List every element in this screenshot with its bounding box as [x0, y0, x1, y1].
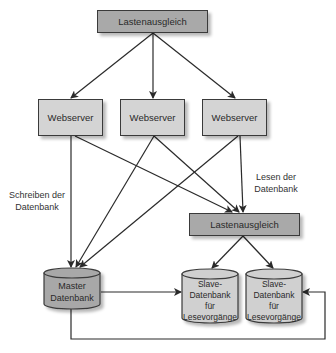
webserver-1-label: Webserver — [48, 112, 94, 123]
slave-db-1-line3: für — [205, 301, 215, 312]
arrow-ws3-to-master — [80, 136, 238, 267]
slave-db-2-line3: für — [269, 301, 279, 312]
write-annotation-line2: Datenbank — [2, 201, 72, 213]
slave-db-2-line1: Slave- — [262, 279, 286, 290]
write-annotation-line1: Schreiben der — [2, 189, 72, 201]
arrow-read-lb-to-slave-2 — [243, 236, 273, 268]
arrow-ws2-to-read-lb — [154, 136, 239, 212]
slave-db-1: Slave- Datenbank für Lesevorgänge — [180, 279, 240, 323]
slave-db-1-line2: Datenbank — [189, 290, 230, 301]
arrow-ws3-to-read-lb — [240, 136, 243, 212]
slave-db-2-line4: Lesevorgänge — [247, 312, 301, 323]
arrow-lb-to-webserver-3 — [153, 33, 235, 98]
slave-db-2-line2: Datenbank — [253, 290, 294, 301]
master-db-line2: Datenbank — [50, 292, 94, 304]
slave-db-2: Slave- Datenbank für Lesevorgänge — [244, 279, 304, 323]
webserver-1: Webserver — [38, 99, 103, 136]
load-balancer-top: Lastenausgleich — [97, 10, 208, 33]
master-db: Master Datenbank — [44, 278, 100, 306]
webserver-3-label: Webserver — [212, 112, 258, 123]
slave-db-1-line1: Slave- — [198, 279, 222, 290]
webserver-2: Webserver — [120, 99, 185, 136]
arrow-lb-to-webserver-1 — [71, 33, 153, 98]
load-balancer-read: Lastenausgleich — [189, 213, 300, 236]
read-annotation-line1: Lesen der — [246, 171, 306, 183]
arrow-read-lb-to-slave-1 — [212, 236, 243, 268]
load-balancer-top-label: Lastenausgleich — [118, 16, 187, 27]
arrow-ws1-to-read-lb — [75, 136, 232, 212]
webserver-2-label: Webserver — [130, 112, 176, 123]
master-db-line1: Master — [58, 280, 86, 292]
write-annotation: Schreiben der Datenbank — [2, 189, 72, 213]
read-annotation: Lesen der Datenbank — [246, 171, 306, 195]
webserver-3: Webserver — [202, 99, 267, 136]
load-balancer-read-label: Lastenausgleich — [210, 219, 279, 230]
read-annotation-line2: Datenbank — [246, 183, 306, 195]
slave-db-1-line4: Lesevorgänge — [183, 312, 237, 323]
